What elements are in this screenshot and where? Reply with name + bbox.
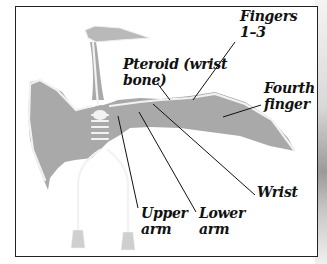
label-lower-arm: Lower arm [199, 205, 245, 237]
head-crest [85, 26, 150, 42]
sternum [93, 110, 107, 120]
left-foot [71, 230, 85, 248]
label-fourth-finger: Fourth finger [264, 80, 315, 112]
wing-membrane [28, 80, 295, 190]
label-pteroid: Pteroid (wrist bone) [123, 56, 227, 88]
label-wrist: Wrist [257, 184, 298, 200]
label-upper-arm: Upper arm [141, 205, 188, 237]
label-fingers-1-3: Fingers 1–3 [240, 8, 297, 40]
right-foot [121, 232, 135, 250]
